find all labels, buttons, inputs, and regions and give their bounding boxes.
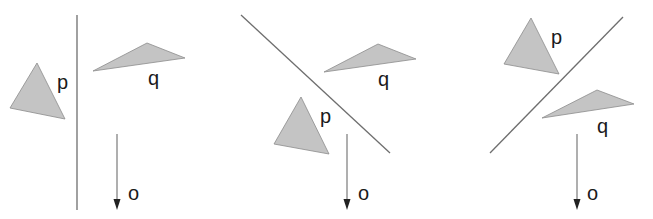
triangle-q (324, 44, 416, 72)
panel-3: pqo (490, 17, 634, 210)
panel-1: pqo (10, 15, 185, 210)
triangle-q-label: q (597, 115, 608, 137)
triangle-q-label: q (148, 67, 159, 89)
triangle-p-label: p (551, 26, 562, 48)
arrowhead-icon (114, 199, 121, 210)
arrow-o-label: o (128, 182, 139, 204)
arrow-o-label: o (587, 182, 598, 204)
triangle-p-label: p (320, 105, 331, 127)
triangle-q (93, 43, 185, 71)
triangle-p-label: p (57, 71, 68, 93)
separating-line-diagram: pqopqopqo (0, 0, 653, 219)
triangle-q-label: q (378, 68, 389, 90)
arrowhead-icon (574, 199, 581, 210)
diagram-canvas: pqopqopqo (0, 0, 653, 219)
arrow-o-label: o (358, 182, 369, 204)
triangle-q (542, 90, 634, 118)
panel-2: pqo (241, 15, 416, 210)
arrowhead-icon (344, 199, 351, 210)
